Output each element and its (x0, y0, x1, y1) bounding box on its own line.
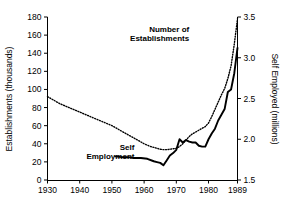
left-tick-label: 160 (27, 30, 41, 40)
x-tick-label: 1970 (167, 185, 186, 195)
chart-figure: 020406080100120140160180 Establishments … (0, 0, 283, 209)
left-tick-label: 180 (27, 12, 41, 22)
chart-background (0, 0, 283, 209)
x-axis-tick-labels: 1930194019501960197019801989 (38, 185, 247, 195)
x-tick-label: 1930 (38, 185, 57, 195)
right-tick-label: 3.0 (244, 53, 256, 63)
x-tick-label: 1980 (199, 185, 218, 195)
left-tick-label: 140 (27, 48, 41, 58)
left-tick-label: 80 (32, 103, 42, 113)
right-tick-label: 2.5 (244, 94, 256, 104)
right-tick-label: 1.5 (244, 175, 256, 185)
left-tick-label: 40 (32, 139, 42, 149)
x-tick-label: 1950 (102, 185, 121, 195)
annotation-self-employment-line1: Self (120, 143, 135, 152)
x-tick-label: 1940 (70, 185, 89, 195)
left-tick-label: 120 (27, 66, 41, 76)
left-tick-label: 0 (37, 175, 42, 185)
left-tick-label: 60 (32, 121, 42, 131)
annotation-number-of-establishments-line1: Number of (149, 25, 189, 34)
left-tick-label: 100 (27, 84, 41, 94)
x-tick-label: 1989 (228, 185, 247, 195)
x-tick-label: 1960 (135, 185, 154, 195)
chart-canvas: 020406080100120140160180 Establishments … (0, 0, 283, 209)
annotation-self-employment-line2: Employment (86, 152, 134, 161)
left-axis-title: Establishments (thousands) (4, 46, 14, 151)
left-tick-label: 20 (32, 157, 42, 167)
right-tick-label: 3.5 (244, 12, 256, 22)
right-axis-title: Self Employed (millions) (270, 53, 280, 144)
right-tick-label: 2.0 (244, 134, 256, 144)
annotation-number-of-establishments-line2: Establishments (130, 34, 190, 43)
